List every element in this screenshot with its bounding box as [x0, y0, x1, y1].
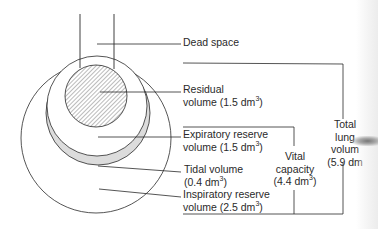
total-bracket-top [183, 63, 343, 64]
tidal-paren: ) [224, 176, 228, 188]
residual-line2: volume (1.5 dm3) [183, 96, 263, 109]
residual-paren: ) [259, 96, 263, 108]
expiratory-paren: ) [259, 141, 263, 153]
inspiratory-value: volume (2.5 dm [183, 201, 255, 213]
label-residual-volume: Residual volume (1.5 dm3) [183, 83, 263, 108]
residual-volume-circle [65, 65, 127, 127]
vital-line2: capacity [268, 163, 322, 176]
expiratory-value: volume (1.5 dm [183, 141, 255, 153]
vital-value: (4.4 dm [273, 175, 309, 187]
residual-line1: Residual [183, 83, 263, 96]
label-dead-space: Dead space [183, 36, 239, 49]
page-edge-smudge [352, 136, 378, 146]
label-inspiratory-reserve: Inspiratory reserve volume (2.5 dm3) [183, 188, 270, 213]
tidal-line2: (0.4 dm3) [184, 176, 243, 189]
inspiratory-line2: volume (2.5 dm3) [183, 201, 270, 214]
label-vital-capacity: Vital capacity (4.4 dm3) [268, 150, 322, 188]
vital-line1: Vital [268, 150, 322, 163]
vital-paren: ) [313, 175, 317, 187]
tidal-value: (0.4 dm [184, 176, 220, 188]
label-expiratory-reserve: Expiratory reserve volume (1.5 dm3) [183, 128, 268, 153]
residual-value: volume (1.5 dm [183, 96, 255, 108]
page-edge-shadow [356, 0, 378, 229]
vital-line3: (4.4 dm3) [268, 175, 322, 188]
tidal-line1: Tidal volume [184, 163, 243, 176]
expiratory-line2: volume (1.5 dm3) [183, 141, 268, 154]
dead-space-text: Dead space [183, 36, 239, 48]
label-tidal-volume: Tidal volume (0.4 dm3) [184, 163, 243, 188]
inspiratory-paren: ) [259, 201, 263, 213]
